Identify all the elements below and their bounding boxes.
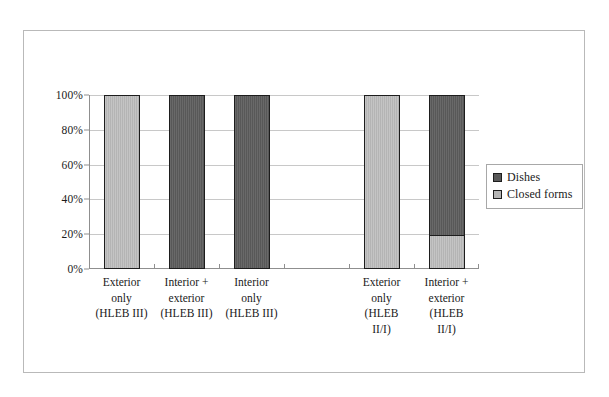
x-axis-label-4-line-3: (HLEB bbox=[350, 306, 413, 322]
bar-slot-4 bbox=[349, 95, 414, 269]
x-axis-label-5-line-1: Interior + bbox=[415, 275, 478, 291]
x-axis-label-2: Interior + exterior (HLEB III) bbox=[154, 275, 219, 337]
x-axis-label-5-line-3: (HLEB bbox=[415, 306, 478, 322]
legend-swatch-icon-closed-forms bbox=[493, 190, 502, 199]
chart-legend: Dishes Closed forms bbox=[486, 164, 583, 209]
x-axis-label-5-line-4: II/I) bbox=[415, 322, 478, 338]
bar-slots bbox=[89, 95, 479, 269]
bar-slot-empty bbox=[284, 95, 349, 269]
x-axis-label-1: Exterior only (HLEB III) bbox=[89, 275, 154, 337]
bar-segment-dishes bbox=[170, 96, 204, 268]
bar-slot-2 bbox=[154, 95, 219, 269]
stacked-bar-chart: 100% 80% 60% 40% 20% 0% bbox=[24, 31, 586, 374]
ytick-label-100: 100% bbox=[56, 89, 83, 101]
x-axis-label-1-line-1: Exterior bbox=[90, 275, 153, 291]
x-axis-label-4: Exterior only (HLEB II/I) bbox=[349, 275, 414, 337]
x-axis-label-5: Interior + exterior (HLEB II/I) bbox=[414, 275, 479, 337]
x-axis-label-5-line-2: exterior bbox=[415, 291, 478, 307]
bar-interior-exterior-hleb-iii[interactable] bbox=[169, 95, 205, 269]
x-axis-label-2-line-3: (HLEB III) bbox=[155, 306, 218, 322]
bar-segment-closed-forms bbox=[105, 96, 139, 268]
x-axis-label-4-line-2: only bbox=[350, 291, 413, 307]
x-axis-label-4-line-4: II/I) bbox=[350, 322, 413, 338]
legend-item-closed-forms[interactable]: Closed forms bbox=[493, 186, 573, 203]
ytick-label-80: 80% bbox=[62, 124, 83, 136]
x-axis-label-3-line-1: Interior bbox=[220, 275, 283, 291]
ytick-label-60: 60% bbox=[62, 159, 83, 171]
bar-segment-dishes bbox=[235, 96, 269, 268]
legend-label-dishes: Dishes bbox=[507, 170, 540, 185]
ytick-label-0: 0% bbox=[67, 263, 83, 275]
bar-interior-only-hleb-iii[interactable] bbox=[234, 95, 270, 269]
x-axis-label-3: Interior only (HLEB III) bbox=[219, 275, 284, 337]
x-axis-label-4-line-1: Exterior bbox=[350, 275, 413, 291]
ytick-label-40: 40% bbox=[62, 193, 83, 205]
x-axis-label-3-line-2: only bbox=[220, 291, 283, 307]
bar-segment-closed-forms bbox=[430, 235, 464, 268]
x-axis-label-empty bbox=[284, 275, 349, 337]
legend-item-dishes[interactable]: Dishes bbox=[493, 169, 573, 186]
bar-slot-3 bbox=[219, 95, 284, 269]
bar-segment-dishes bbox=[430, 96, 464, 235]
bar-slot-5 bbox=[414, 95, 479, 269]
x-axis-label-3-line-3: (HLEB III) bbox=[220, 306, 283, 322]
x-axis-label-2-line-1: Interior + bbox=[155, 275, 218, 291]
x-axis-labels: Exterior only (HLEB III) Interior + exte… bbox=[89, 275, 479, 337]
x-axis-label-1-line-3: (HLEB III) bbox=[90, 306, 153, 322]
plot-area: 100% 80% 60% 40% 20% 0% bbox=[89, 95, 479, 269]
bar-segment-closed-forms bbox=[365, 96, 399, 268]
ytick-label-20: 20% bbox=[62, 228, 83, 240]
bar-exterior-only-hleb-ii-i[interactable] bbox=[364, 95, 400, 269]
x-axis-label-2-line-2: exterior bbox=[155, 291, 218, 307]
legend-swatch-icon-dishes bbox=[493, 173, 502, 182]
bar-slot-1 bbox=[89, 95, 154, 269]
x-axis-label-1-line-2: only bbox=[90, 291, 153, 307]
bar-exterior-only-hleb-iii[interactable] bbox=[104, 95, 140, 269]
bar-interior-exterior-hleb-ii-i[interactable] bbox=[429, 95, 465, 269]
figure-frame: 100% 80% 60% 40% 20% 0% bbox=[23, 30, 585, 373]
legend-label-closed-forms: Closed forms bbox=[507, 187, 573, 202]
